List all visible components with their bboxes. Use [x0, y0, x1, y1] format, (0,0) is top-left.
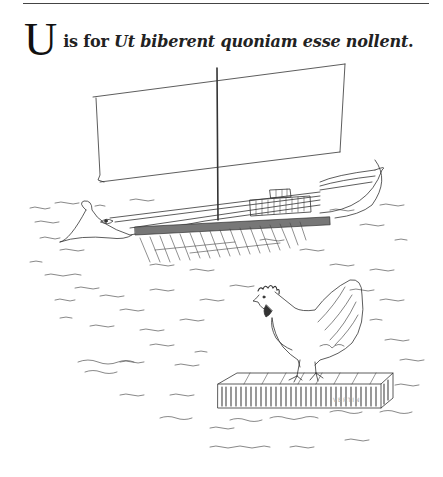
caption: is for Ut biberent quoniam esse nollent. [63, 32, 413, 60]
hen [253, 280, 363, 382]
sea-waves [30, 199, 424, 448]
latin-phrase: Ut biberent quoniam esse nollent [114, 32, 408, 51]
caption-period: . [408, 32, 413, 51]
artist-signature: VERTIN [333, 396, 361, 403]
top-rule [23, 3, 429, 4]
galley-hull [60, 160, 384, 262]
page-heading: U is for Ut biberent quoniam esse nollen… [24, 20, 413, 60]
caption-lead: is for [63, 32, 114, 51]
ship-sail [93, 64, 345, 220]
raft [218, 373, 393, 408]
illustration [0, 60, 443, 477]
drop-cap: U [24, 20, 57, 60]
